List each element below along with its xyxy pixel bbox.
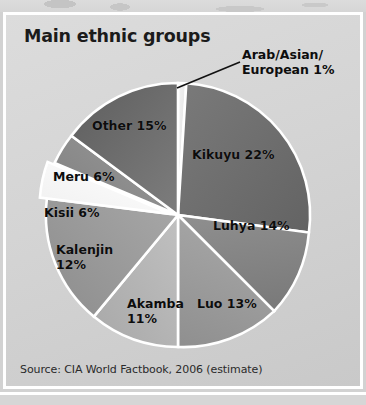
callout-leader-line <box>177 62 240 88</box>
pie-label-kalenjin: Kalenjin 12% <box>56 243 113 273</box>
pie-label-luhya: Luhya 14% <box>213 219 290 234</box>
pie-label-akamba: Akamba 11% <box>127 297 184 327</box>
pie-label-luo: Luo 13% <box>197 297 257 312</box>
pie-label-meru: Meru 6% <box>53 170 115 185</box>
pie-chart-figure: Main ethnic groups <box>0 0 366 405</box>
source-note: Source: CIA World Factbook, 2006 (estima… <box>20 363 262 376</box>
pie-label-kikuyu: Kikuyu 22% <box>192 148 275 163</box>
pie-label-other: Other 15% <box>92 119 166 134</box>
pie-label-kisii: Kisii 6% <box>44 206 100 221</box>
page-bottom-strip <box>0 392 366 405</box>
pie-label-arab-asian-european: Arab/Asian/ European 1% <box>242 47 335 77</box>
